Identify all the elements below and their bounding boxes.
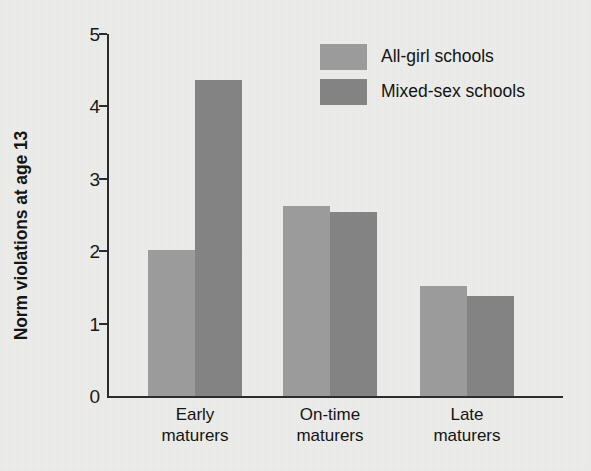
y-tick-mark <box>99 250 107 252</box>
bar <box>195 80 242 396</box>
legend: All-girl schoolsMixed-sex schools <box>320 44 525 105</box>
legend-swatch <box>320 44 367 70</box>
bar <box>148 250 195 396</box>
y-tick-label: 2 <box>89 242 100 261</box>
y-tick-label: 1 <box>89 314 100 333</box>
bar-chart: Norm violations at age 13 012345 Early m… <box>0 0 591 471</box>
y-axis-title: Norm violations at age 13 <box>0 0 42 471</box>
x-axis-line <box>107 396 563 398</box>
y-axis-line <box>107 34 109 398</box>
legend-item: Mixed-sex schools <box>320 79 525 105</box>
y-tick-mark <box>99 178 107 180</box>
y-tick-label: 4 <box>89 97 100 116</box>
bar <box>283 206 330 396</box>
x-category-label: On-time maturers <box>275 404 385 446</box>
y-tick-label: 3 <box>89 169 100 188</box>
bar <box>467 296 514 396</box>
legend-swatch <box>320 79 367 105</box>
y-tick-label: 5 <box>89 25 100 44</box>
x-category-label: Late maturers <box>412 404 522 446</box>
y-tick-mark <box>99 323 107 325</box>
bar <box>330 212 377 396</box>
x-category-label: Early maturers <box>140 404 250 446</box>
legend-label: Mixed-sex schools <box>381 83 525 101</box>
legend-item: All-girl schools <box>320 44 525 70</box>
legend-label: All-girl schools <box>381 48 494 66</box>
y-tick-mark <box>99 33 107 35</box>
y-tick-label: 0 <box>89 387 100 406</box>
bar <box>420 286 467 396</box>
